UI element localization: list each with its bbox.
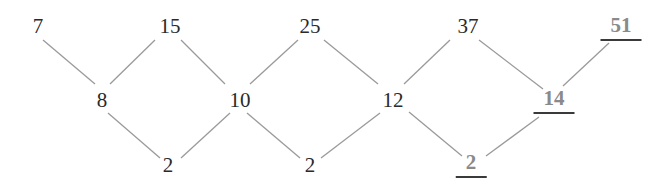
edge-line (250, 40, 298, 84)
edge-line (479, 40, 543, 89)
edge-line (404, 40, 450, 84)
difference-table-diagram: 7152537518101214222 (0, 0, 667, 189)
value-node: 2 (163, 155, 174, 176)
value-node: 10 (230, 90, 251, 111)
value-node: 25 (300, 16, 321, 37)
value-node: 7 (33, 16, 44, 37)
edge-line (43, 40, 95, 84)
edge-line (108, 113, 160, 158)
value-node: 12 (383, 90, 404, 111)
value-node: 2 (305, 155, 316, 176)
predicted-value-node: 2 (456, 152, 487, 178)
edge-line (409, 112, 462, 156)
value-node: 37 (458, 16, 479, 37)
value-node: 8 (97, 90, 108, 111)
edge-line (324, 40, 378, 84)
edge-line (486, 117, 539, 156)
edge-line (321, 113, 380, 158)
value-node: 15 (160, 16, 181, 37)
predicted-value-node: 51 (601, 15, 642, 41)
edge-line (563, 43, 609, 86)
edge-line (181, 113, 230, 158)
edge-line (247, 113, 300, 158)
edge-line (181, 40, 225, 84)
edge-line (110, 40, 155, 84)
predicted-value-node: 14 (534, 88, 575, 114)
